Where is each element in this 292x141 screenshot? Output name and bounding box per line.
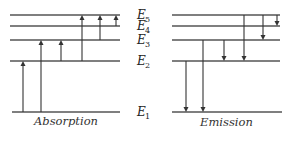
absorption-arrow-e2-e3 (59, 40, 64, 61)
label-e1: E 1 (136, 105, 150, 121)
emission-caption: Emission (199, 115, 253, 129)
emission-panel: Emission (172, 15, 282, 129)
svg-text:2: 2 (145, 61, 150, 70)
emission-arrow-e2-e1 (184, 61, 189, 112)
absorption-panel: Absorption (10, 15, 120, 128)
energy-labels: E 5 E 4 E 3 E 2 E 1 (136, 8, 150, 121)
energy-level-diagram: Absorption E 5 E 4 E 3 E 2 E 1 (0, 0, 292, 141)
emission-arrow-e3-e1 (201, 40, 206, 112)
emission-arrow-e5-e2 (242, 15, 247, 61)
absorption-arrow-e1-e2 (21, 61, 26, 112)
absorption-caption: Absorption (33, 114, 98, 128)
label-e3: E 3 (136, 33, 150, 49)
emission-arrow-e3-e2 (222, 40, 227, 61)
absorption-arrow-e1-e3 (39, 40, 44, 112)
label-e2: E 2 (136, 54, 150, 70)
absorption-arrow-e2-e5 (80, 15, 85, 61)
svg-text:1: 1 (145, 112, 150, 121)
emission-arrow-e5-e3 (261, 15, 266, 40)
emission-arrow-e5-e4 (275, 15, 280, 26)
svg-text:3: 3 (145, 40, 150, 49)
absorption-arrow-e4-e5 (114, 15, 119, 26)
absorption-arrow-e3-e5 (98, 15, 103, 40)
